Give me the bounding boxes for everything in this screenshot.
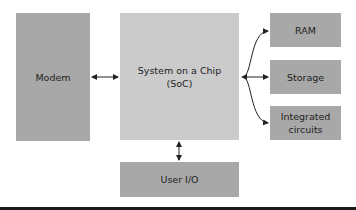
connector-arrows bbox=[0, 0, 356, 210]
junction-arrowhead bbox=[241, 74, 247, 80]
bottom-rule bbox=[0, 207, 356, 210]
soc-ram-arrow bbox=[243, 31, 268, 77]
soc-ic-arrow bbox=[243, 77, 268, 123]
